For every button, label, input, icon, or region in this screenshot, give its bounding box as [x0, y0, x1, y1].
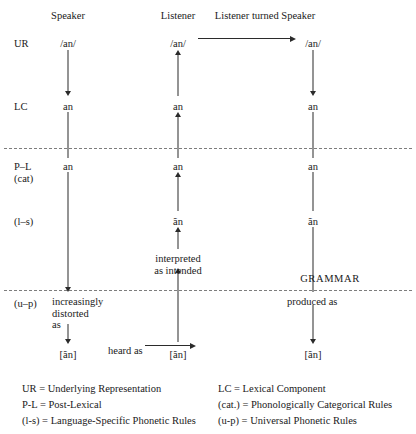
- turned-speaker-output: [ãn]: [305, 349, 322, 361]
- listener-input: [ãn]: [170, 349, 187, 361]
- legend-right-0: LC = Lexical Component: [218, 383, 326, 395]
- listener-pl: an: [173, 161, 183, 173]
- turned-speaker-ur-to-lc: [313, 50, 314, 91]
- column-header-1: Listener: [161, 10, 195, 22]
- row-label-cat-3: (cat): [14, 173, 33, 185]
- interpreted-as-intended-note: interpretedas intended: [154, 253, 202, 276]
- listener-ls-to-pl: [178, 177, 179, 211]
- listener-interpreted-to-ls: [178, 232, 179, 249]
- ur-transfer-arrow-head: [290, 36, 296, 42]
- phonology-derivation-diagram: SpeakerListenerListener turned Speaker U…: [0, 0, 416, 434]
- grammar-label: GRAMMAR: [300, 273, 360, 284]
- row-label-lc-1: LC: [14, 101, 27, 113]
- legend-left-2: (l-s) = Language-Specific Phonetic Rules: [22, 415, 196, 427]
- speaker-pl-to-up-head: [65, 287, 71, 292]
- speaker-ur-to-lc-head: [65, 91, 71, 96]
- listener-ls: ãn: [173, 216, 183, 228]
- heard-as-arrow-head: [190, 343, 196, 349]
- turned-speaker-produced-to-output-head: [310, 339, 316, 344]
- legend-left-0: UR = Underlying Representation: [22, 383, 161, 395]
- speaker-ur-to-lc: [68, 50, 69, 91]
- speaker-lc: an: [63, 101, 73, 113]
- turned-speaker-produced-to-output: [313, 305, 314, 339]
- interpreted-line-1: as intended: [154, 265, 202, 277]
- row-label-ur-0: UR: [14, 38, 29, 50]
- row-label-up-5: (u–p): [14, 298, 37, 310]
- legend-right-2: (u-p) = Universal Phonetic Rules: [218, 415, 357, 427]
- speaker-distortion-line-2: as: [52, 319, 103, 331]
- turned-speaker-ur-to-lc-head: [310, 91, 316, 96]
- turned-speaker-pl: an: [308, 161, 318, 173]
- interpreted-line-0: interpreted: [154, 253, 202, 265]
- row-label-pl-2: P–L: [14, 161, 32, 173]
- speaker-distortion-line-1: distorted: [52, 308, 103, 320]
- upper-dashed-divider: [4, 148, 412, 149]
- heard-as-label: heard as: [108, 345, 143, 357]
- legend-right-1: (cat.) = Phonologically Categorical Rule…: [218, 399, 392, 411]
- speaker-note-to-output-head: [65, 339, 71, 344]
- turned-speaker-ur: /an/: [305, 38, 321, 50]
- speaker-lc-to-pl: [68, 112, 69, 158]
- turned-speaker-ls: ãn: [308, 216, 318, 228]
- listener-input-to-interpreted: [178, 273, 179, 342]
- listener-lc: an: [173, 101, 183, 113]
- listener-ur: /an/: [170, 38, 186, 50]
- turned-speaker-lc-to-pl: [313, 112, 314, 158]
- legend-left-1: P-L = Post-Lexical: [22, 399, 102, 411]
- turned-speaker-lc: an: [308, 101, 318, 113]
- speaker-pl: an: [63, 161, 73, 173]
- speaker-output: [ãn]: [60, 349, 77, 361]
- column-header-0: Speaker: [51, 10, 85, 22]
- heard-as-arrow: [145, 345, 190, 346]
- column-header-2: Listener turned Speaker: [215, 10, 315, 22]
- speaker-ur: /an/: [60, 38, 76, 50]
- produced-as-label: produced as: [287, 296, 337, 308]
- listener-lc-to-ur: [178, 55, 179, 96]
- row-label-ls-4: (l–s): [14, 216, 33, 228]
- turned-speaker-pl-to-ls: [313, 172, 314, 211]
- ur-transfer-arrow: [198, 38, 290, 39]
- speaker-distortion-note: increasinglydistortedas: [52, 296, 103, 331]
- listener-lc-to-ur-head: [175, 50, 181, 55]
- speaker-pl-to-up: [68, 172, 69, 287]
- speaker-distortion-line-0: increasingly: [52, 296, 103, 308]
- listener-pl-to-lc: [178, 117, 179, 158]
